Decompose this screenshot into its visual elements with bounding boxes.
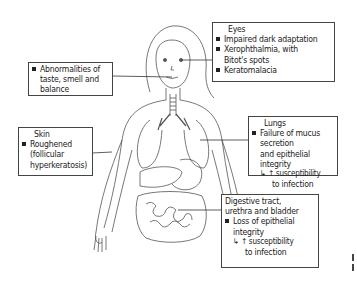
torso-outline (104, 100, 238, 228)
taste-item-cont: taste, smell and (32, 74, 109, 84)
taste-item-cont: balance (32, 84, 109, 94)
skin-title: Skin (22, 129, 89, 139)
leader-taste (112, 76, 172, 77)
lungs-consequence: ↳ ↑ susceptibility (252, 169, 334, 179)
digestive-box: Digestive tract, urethra and bladder Los… (221, 194, 319, 268)
lungs-item: Failure of mucus secretion (252, 128, 334, 148)
skin-item: Roughened (22, 139, 89, 149)
lungs-title: Lungs (252, 118, 334, 128)
bronchi (158, 114, 190, 130)
liver (140, 167, 182, 188)
eyes-box: Eyes Impaired dark adaptation Xerophthal… (212, 22, 335, 82)
digestive-item: Loss of epithelial (225, 216, 315, 226)
left-lung (137, 120, 162, 168)
skin-box: Skin Roughened (follicular hyperkeratosi… (18, 127, 93, 176)
digestive-item-cont: integrity (225, 227, 315, 237)
left-arm (95, 140, 132, 243)
cropped-edge-marks (352, 254, 355, 272)
leader-skin (92, 152, 112, 153)
right-lung (184, 120, 209, 168)
stomach (172, 159, 202, 190)
taste-box: Abnormalities of taste, smell and balanc… (28, 62, 113, 96)
large-intestine (136, 192, 206, 243)
digestive-consequence: ↳ ↑ susceptibility (225, 237, 315, 247)
skin-item-cont: (follicular (22, 149, 89, 159)
eyes-item-cont: Bitot's spots (216, 55, 331, 65)
eyes-item: Keratomalacia (216, 65, 331, 75)
small-intestine (146, 202, 192, 227)
trachea (170, 94, 176, 116)
left-eye (163, 58, 166, 61)
eyes-title: Eyes (216, 24, 331, 34)
lungs-consequence-cont: to infection (252, 179, 334, 189)
digestive-title-cont: urethra and bladder (225, 206, 315, 216)
eyes-item: Impaired dark adaptation (216, 34, 331, 44)
lungs-item-cont: and epithelial integrity (252, 149, 334, 169)
left-hand (94, 236, 106, 252)
eyes-item: Xerophthalmia, with (216, 44, 331, 54)
taste-item: Abnormalities of (32, 64, 109, 74)
face-outline (156, 40, 190, 88)
skin-item-cont: hyperkeratosis) (22, 160, 89, 170)
digestive-consequence-cont: to infection (225, 247, 315, 257)
lungs-box: Lungs Failure of mucus secretion and epi… (248, 116, 338, 176)
digestive-title: Digestive tract, (225, 196, 315, 206)
